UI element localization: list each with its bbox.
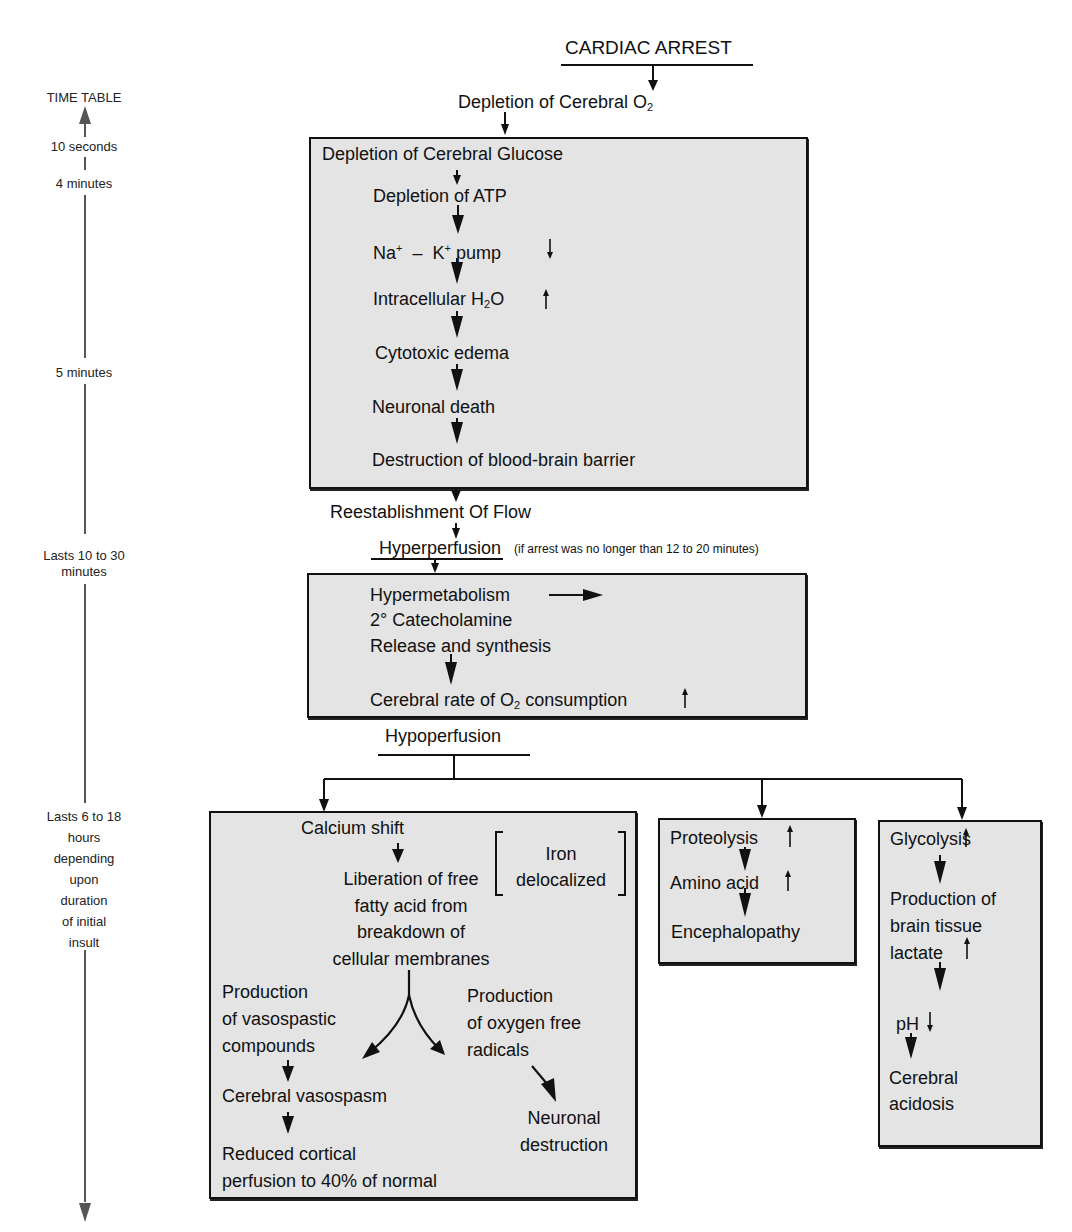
depletion-atp-node: Depletion of ATP bbox=[373, 186, 507, 206]
hypoperfusion-node: Hypoperfusion bbox=[385, 726, 501, 746]
node-text-line: Production bbox=[222, 979, 336, 1006]
reestablishment-flow-node: Reestablishment Of Flow bbox=[330, 502, 531, 522]
catecholamine-node: 2° Catecholamine bbox=[370, 610, 512, 630]
node-text-line: Neuronal bbox=[505, 1105, 623, 1132]
node-text-line: acidosis bbox=[889, 1091, 958, 1117]
hypermetabolism-node: Hypermetabolism bbox=[370, 585, 510, 605]
node-text-line: fatty acid from bbox=[300, 893, 522, 920]
node-text-line: Iron bbox=[503, 841, 619, 867]
node-text-line: breakdown of bbox=[300, 919, 522, 946]
node-text-line: of vasospastic bbox=[222, 1006, 336, 1033]
neuronal-destruction-node: Neuronal destruction bbox=[505, 1105, 623, 1159]
reduced-cortical-perfusion-node: Reduced cortical perfusion to 40% of nor… bbox=[222, 1141, 437, 1195]
cerebral-vasospasm-node: Cerebral vasospasm bbox=[222, 1086, 387, 1106]
node-text: Cerebral rate of O bbox=[370, 690, 514, 710]
node-text-line: destruction bbox=[505, 1132, 623, 1159]
glycolysis-node: Glycolysis bbox=[890, 829, 971, 849]
node-text-line: Cerebral bbox=[889, 1065, 958, 1091]
node-text-line: compounds bbox=[222, 1033, 336, 1060]
node-text: Depletion of Cerebral O bbox=[458, 92, 647, 112]
proteolysis-node: Proteolysis bbox=[670, 828, 758, 848]
depletion-cerebral-o2-node: Depletion of Cerebral O2 bbox=[458, 92, 653, 117]
node-text-line: delocalized bbox=[503, 867, 619, 893]
ph-node: pH bbox=[896, 1014, 919, 1034]
node-text: Na bbox=[373, 243, 396, 263]
amino-acid-node: Amino acid bbox=[670, 873, 759, 893]
oxygen-free-radicals-node: Production of oxygen free radicals bbox=[467, 983, 581, 1064]
hyperperfusion-note: (if arrest was no longer than 12 to 20 m… bbox=[514, 542, 759, 556]
neuronal-death-node: Neuronal death bbox=[372, 397, 495, 417]
vasospastic-compounds-node: Production of vasospastic compounds bbox=[222, 979, 336, 1060]
cerebral-o2-consumption-node: Cerebral rate of O2 consumption bbox=[370, 690, 627, 715]
liberation-ffa-node: Liberation of free fatty acid from break… bbox=[300, 866, 522, 972]
node-text-line: of oxygen free bbox=[467, 1010, 581, 1037]
cytotoxic-edema-node: Cytotoxic edema bbox=[375, 343, 509, 363]
node-text: O bbox=[490, 289, 504, 309]
node-text-line: brain tissue bbox=[890, 913, 996, 940]
node-text-line: radicals bbox=[467, 1037, 581, 1064]
release-synthesis-node: Release and synthesis bbox=[370, 636, 551, 656]
encephalopathy-node: Encephalopathy bbox=[671, 922, 800, 942]
destruction-bbb-node: Destruction of blood-brain barrier bbox=[372, 450, 635, 470]
node-text: – bbox=[412, 243, 422, 263]
node-text: pump bbox=[456, 243, 501, 263]
lactate-production-node: Production of brain tissue lactate bbox=[890, 886, 996, 967]
node-text-line: Production bbox=[467, 983, 581, 1010]
node-text-line: perfusion to 40% of normal bbox=[222, 1168, 437, 1195]
superscript: + bbox=[445, 242, 451, 254]
intracellular-h2o-node: Intracellular H2O bbox=[373, 289, 504, 314]
subscript: 2 bbox=[647, 101, 653, 113]
node-text-line: Reduced cortical bbox=[222, 1141, 437, 1168]
na-k-pump-node: Na+ – K+ pump bbox=[373, 238, 501, 263]
calcium-shift-node: Calcium shift bbox=[301, 818, 404, 838]
cardiac-arrest-node: CARDIAC ARREST bbox=[565, 38, 732, 58]
node-text: consumption bbox=[520, 690, 627, 710]
superscript: + bbox=[396, 242, 402, 254]
node-text: Intracellular H bbox=[373, 289, 484, 309]
depletion-glucose-node: Depletion of Cerebral Glucose bbox=[322, 144, 563, 164]
node-text-line: lactate bbox=[890, 940, 996, 967]
node-text-line: Liberation of free bbox=[300, 866, 522, 893]
node-text-line: Production of bbox=[890, 886, 996, 913]
node-text-line: cellular membranes bbox=[300, 946, 522, 973]
iron-delocalized-node: Iron delocalized bbox=[503, 841, 619, 893]
hyperperfusion-node: Hyperperfusion bbox=[379, 538, 501, 558]
node-text: K bbox=[433, 243, 445, 263]
cerebral-acidosis-node: Cerebral acidosis bbox=[889, 1065, 958, 1117]
